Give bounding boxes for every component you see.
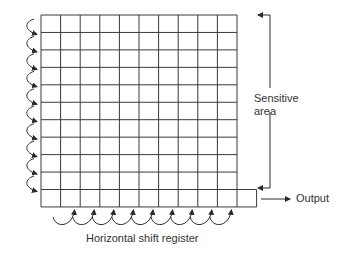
output-label: Output (296, 192, 329, 205)
pixel-grid (41, 15, 257, 207)
sensitive-area-label-line1: Sensitive (254, 92, 299, 105)
sensitive-area-label: Sensitive area (254, 92, 299, 118)
horizontal-shift-register-label: Horizontal shift register (86, 232, 199, 245)
horizontal-shift-arrows (53, 210, 231, 225)
vertical-shift-arrows (27, 19, 37, 192)
sensitive-area-label-line2: area (254, 105, 299, 118)
ccd-diagram (0, 0, 351, 254)
